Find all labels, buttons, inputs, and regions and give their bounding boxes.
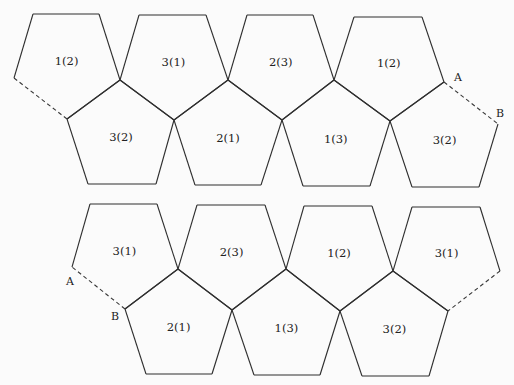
face-edge bbox=[120, 80, 174, 120]
pentagon-face: 3(2) bbox=[390, 82, 498, 187]
face-label: 1(2) bbox=[327, 246, 351, 260]
face-edge bbox=[390, 82, 444, 121]
face-edge bbox=[232, 310, 254, 375]
pentagon-face: 1(2) bbox=[286, 206, 393, 311]
face-edge bbox=[334, 17, 354, 80]
face-edge bbox=[174, 120, 195, 185]
face-edge bbox=[479, 124, 498, 187]
face-edge bbox=[67, 80, 120, 119]
pentagon-face: 2(3) bbox=[228, 15, 334, 120]
face-edge bbox=[156, 120, 174, 184]
face-edge bbox=[370, 121, 390, 186]
face-edge bbox=[206, 15, 228, 80]
face-edge bbox=[393, 207, 412, 271]
pentagon-face: 1(2) bbox=[334, 17, 444, 121]
pentagon-face: 1(2) bbox=[14, 14, 120, 119]
face-edge bbox=[480, 207, 500, 271]
pentagon-face: 2(3) bbox=[178, 205, 286, 310]
face-edge bbox=[14, 14, 33, 78]
face-edge bbox=[265, 205, 286, 269]
face-label: 1(2) bbox=[55, 54, 79, 68]
face-edge bbox=[261, 120, 282, 185]
face-label: 3(2) bbox=[383, 322, 407, 336]
face-label: 2(1) bbox=[216, 131, 240, 145]
face-label: 2(1) bbox=[167, 320, 191, 334]
pentagon-face: 3(2) bbox=[340, 271, 448, 376]
face-label: 2(3) bbox=[220, 245, 244, 259]
face-edge bbox=[282, 80, 334, 120]
vertex-label-b: B bbox=[496, 107, 504, 120]
dashed-edge bbox=[448, 271, 500, 311]
face-edge bbox=[286, 206, 304, 269]
pentagon-face: 3(1) bbox=[393, 207, 500, 311]
face-edge bbox=[228, 80, 282, 120]
pentagon-face: 3(2) bbox=[67, 80, 174, 184]
vertex-label-a: A bbox=[453, 71, 463, 84]
face-edge bbox=[67, 119, 88, 184]
face-edge bbox=[120, 15, 139, 80]
face-label: 3(1) bbox=[435, 246, 459, 260]
dashed-edge bbox=[444, 82, 498, 124]
face-label: 3(2) bbox=[109, 130, 133, 144]
top-net: 1(2)3(1)2(3)1(2)3(2)2(1)1(3)3(2) bbox=[14, 14, 498, 187]
dashed-edge bbox=[14, 78, 67, 119]
face-edge bbox=[72, 204, 90, 267]
pentagon-face: 2(1) bbox=[174, 80, 282, 185]
face-edge bbox=[390, 121, 412, 187]
face-edge bbox=[282, 120, 303, 186]
dashed-edge bbox=[72, 267, 125, 309]
face-edge bbox=[232, 269, 286, 310]
face-edge bbox=[320, 311, 340, 375]
face-edge bbox=[157, 204, 178, 269]
pentagon-face: 3(1) bbox=[120, 15, 228, 120]
face-edge bbox=[228, 15, 247, 80]
face-label: 1(3) bbox=[324, 132, 348, 146]
face-edge bbox=[286, 269, 340, 311]
face-edge bbox=[313, 15, 334, 80]
face-edge bbox=[372, 206, 393, 271]
pentagon-face: 3(1) bbox=[72, 204, 178, 309]
face-edge bbox=[393, 271, 448, 311]
face-edge bbox=[174, 80, 228, 120]
face-label: 3(1) bbox=[162, 55, 186, 69]
vertex-label-a: A bbox=[65, 275, 75, 288]
face-edge bbox=[178, 205, 197, 269]
pentagon-face: 2(1) bbox=[125, 269, 232, 374]
pentagon-face: 1(3) bbox=[232, 269, 340, 375]
face-label: 3(2) bbox=[433, 133, 457, 147]
bottom-net: 3(1)2(3)1(2)3(1)2(1)1(3)3(2) bbox=[72, 204, 500, 376]
face-edge bbox=[429, 311, 448, 376]
face-edge bbox=[99, 14, 120, 80]
face-label: 3(1) bbox=[113, 244, 137, 258]
vertex-label-b: B bbox=[111, 310, 119, 323]
face-edge bbox=[125, 309, 146, 374]
face-label: 1(3) bbox=[275, 321, 299, 335]
pentagon-net-diagram: 1(2)3(1)2(3)1(2)3(2)2(1)1(3)3(2)3(1)2(3)… bbox=[0, 0, 514, 385]
face-edge bbox=[422, 17, 444, 82]
face-edge bbox=[334, 80, 390, 121]
face-label: 1(2) bbox=[377, 56, 401, 70]
face-label: 2(3) bbox=[269, 55, 293, 69]
face-edge bbox=[340, 271, 393, 311]
face-edge bbox=[178, 269, 232, 310]
pentagon-face: 1(3) bbox=[282, 80, 390, 186]
face-edge bbox=[340, 311, 362, 376]
face-edge bbox=[125, 269, 178, 309]
face-edge bbox=[212, 310, 232, 374]
